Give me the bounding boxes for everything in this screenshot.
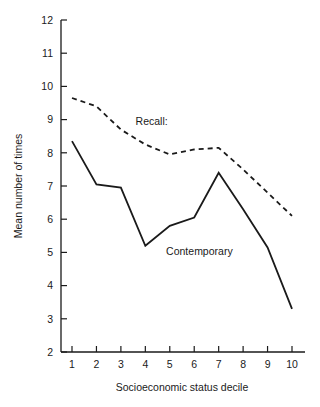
- y-axis-tick-label: 5: [47, 246, 53, 258]
- x-axis-tick-label: 1: [69, 358, 75, 370]
- y-axis-tick-label: 12: [41, 14, 53, 26]
- y-axis-tick-label: 4: [47, 279, 53, 291]
- series-line-contemporary: [72, 141, 292, 309]
- series-line-recall: [72, 98, 292, 216]
- x-axis-tick-label: 4: [142, 358, 148, 370]
- chart-axes: [61, 20, 305, 352]
- x-axis-tick-label: 5: [167, 358, 173, 370]
- y-axis-tick-label: 9: [47, 113, 53, 125]
- y-axis-tick-label: 7: [47, 180, 53, 192]
- y-axis-tick-label: 8: [47, 147, 53, 159]
- chart-ticks: [61, 20, 292, 352]
- chart-series: [72, 98, 292, 309]
- y-axis-tick-label: 2: [47, 346, 53, 358]
- x-axis-tick-label: 8: [240, 358, 246, 370]
- chart-figure: 1211109876543212345678910 Recall:Contemp…: [0, 0, 320, 407]
- y-axis-tick-label: 6: [47, 213, 53, 225]
- x-axis-tick-label: 3: [118, 358, 124, 370]
- series-label-recall: Recall:: [136, 115, 168, 127]
- y-axis-tick-label: 3: [47, 313, 53, 325]
- y-axis-title: Mean number of times: [12, 134, 24, 238]
- y-axis-tick-label: 11: [42, 47, 53, 59]
- y-axis-tick-label: 10: [41, 80, 53, 92]
- x-axis-title: Socioeconomic status decile: [116, 381, 249, 393]
- chart-series-annotations: Recall:Contemporary: [136, 115, 234, 256]
- series-label-contemporary: Contemporary: [166, 245, 233, 257]
- x-axis-tick-label: 10: [286, 358, 298, 370]
- x-axis-tick-label: 9: [265, 358, 271, 370]
- chart-tick-labels: 1211109876543212345678910: [41, 14, 298, 370]
- x-axis-tick-label: 2: [94, 358, 100, 370]
- x-axis-tick-label: 7: [216, 358, 222, 370]
- line-chart-plot: 1211109876543212345678910 Recall:Contemp…: [0, 0, 320, 407]
- x-axis-tick-label: 6: [191, 358, 197, 370]
